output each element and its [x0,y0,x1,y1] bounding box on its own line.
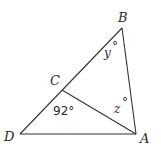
point-label-D: D [3,129,15,144]
point-label-C: C [50,73,60,88]
angle-label-y: y ° [103,39,118,60]
degree-symbol-z: ° [122,95,128,109]
angle-label-92: 92° [53,104,74,118]
segment-DB [20,28,122,134]
geometry-diagram: B C D A y ° 92° z ° [0,0,161,154]
angle-var-z: z [113,102,121,116]
point-label-A: A [139,131,149,146]
angle-var-y: y [103,46,111,60]
point-label-B: B [117,10,128,25]
angle-label-z: z ° [113,95,128,116]
degree-symbol-y: ° [112,39,118,53]
segment-BA [122,28,136,134]
